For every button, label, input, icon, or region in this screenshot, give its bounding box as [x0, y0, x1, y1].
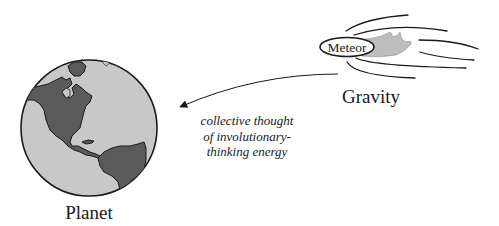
streak-line	[346, 15, 408, 31]
caption-line-3: thinking energy	[207, 144, 288, 159]
planet-label: Planet	[65, 202, 113, 223]
caption-line-2: of involutionary-	[203, 129, 291, 144]
meteor-label: Meteor	[328, 40, 367, 55]
arrow-caption: collective thought of involutionary- thi…	[201, 113, 294, 159]
gravity-label: Gravity	[342, 86, 401, 107]
gravity-arrow	[180, 74, 338, 107]
diagram-svg: Planet Meteor Gravity collective thought…	[0, 0, 499, 226]
diagram-canvas: Planet Meteor Gravity collective thought…	[0, 0, 499, 226]
caption-line-1: collective thought	[201, 113, 294, 128]
streak-line	[356, 58, 466, 68]
streak-line	[347, 62, 415, 78]
globe-icon	[21, 58, 160, 198]
streak-line	[420, 52, 474, 60]
streak-line	[419, 40, 478, 49]
